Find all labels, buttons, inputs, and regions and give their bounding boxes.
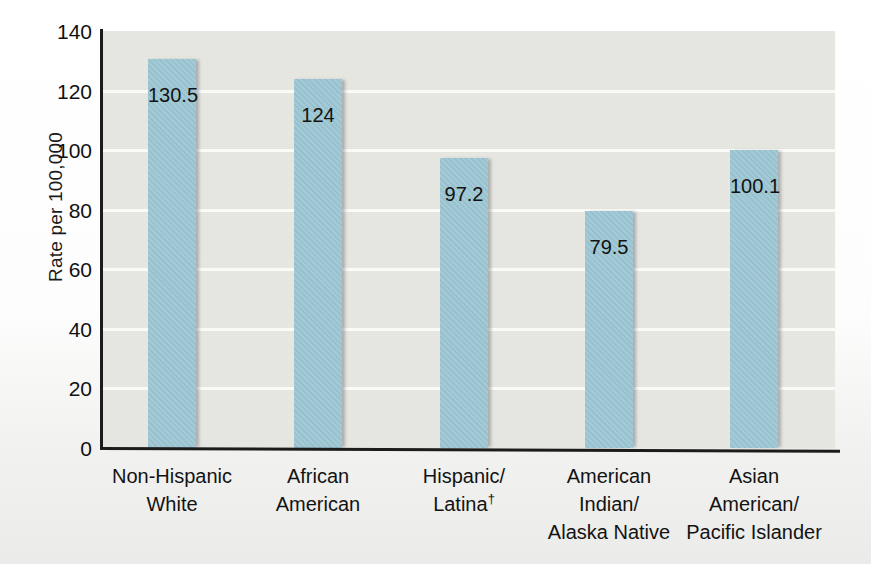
plot-area: 130.512497.279.5100.1	[102, 31, 835, 448]
bar-value-label-1: 130.5	[148, 84, 196, 107]
bar-chart-figure: Rate per 100,000 020406080100120140 130.…	[0, 0, 871, 564]
bar-value-label-4: 79.5	[585, 236, 633, 259]
x-axis-label-5-line-3: Pacific Islander	[634, 518, 871, 546]
y-tick-label-60: 60	[34, 259, 92, 280]
gridline-100	[102, 149, 835, 152]
y-tick-label-120: 120	[34, 80, 92, 101]
bar-value-label-2: 124	[294, 104, 342, 127]
y-tick-label-0: 0	[34, 438, 92, 459]
y-tick-label-80: 80	[34, 199, 92, 220]
bar-1[interactable]	[148, 59, 196, 448]
x-axis-category-labels: Non-HispanicWhiteAfricanAmericanHispanic…	[0, 462, 871, 562]
y-tick-label-40: 40	[34, 318, 92, 339]
y-tick-label-100: 100	[34, 140, 92, 161]
x-axis-label-5-line-2: American/	[634, 490, 871, 518]
y-axis-line	[100, 29, 103, 450]
x-axis-label-5: AsianAmerican/Pacific Islander	[634, 462, 871, 546]
bar-value-label-3: 97.2	[440, 183, 488, 206]
gridline-120	[102, 90, 835, 93]
y-tick-label-20: 20	[34, 378, 92, 399]
bar-value-label-5: 100.1	[730, 175, 778, 198]
x-axis-label-5-line-1: Asian	[634, 462, 871, 490]
bar-2[interactable]	[294, 79, 342, 448]
y-tick-label-140: 140	[34, 21, 92, 42]
